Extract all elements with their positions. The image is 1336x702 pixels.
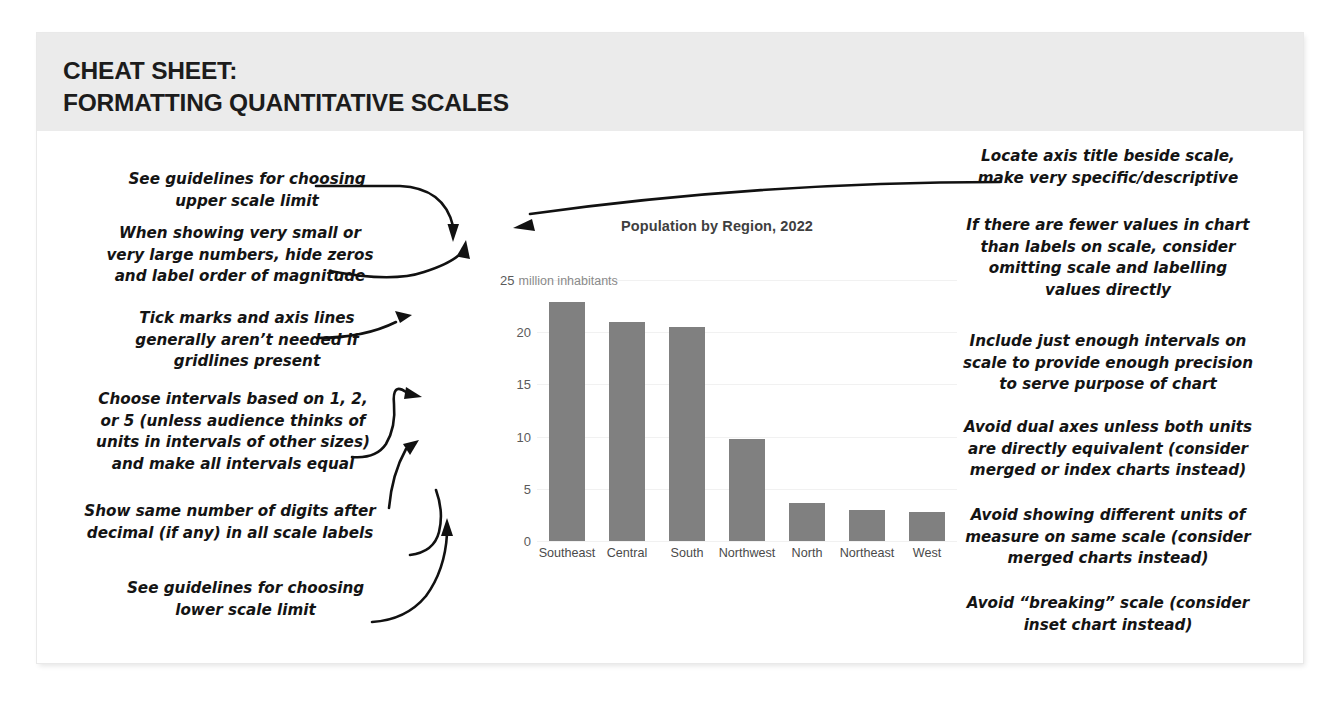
annotation-lower-scale-limit: See guidelines for choosing lower scale … [99,578,392,621]
bar-north [789,503,825,541]
gridline-15 [537,384,957,385]
y-axis-title: million inhabitants [518,274,617,288]
annotation-hide-zeros: When showing very small or very large nu… [85,223,395,288]
annotation-upper-scale-limit: See guidelines for choosing upper scale … [102,169,392,212]
annotation-dual-axes: Avoid dual axes unless both units are di… [935,417,1281,482]
ytick-label-0: 0 [524,534,531,549]
annotation-tick-marks: Tick marks and axis lines generally aren… [102,308,392,373]
bar-central [609,322,645,541]
cheat-sheet-card: CHEAT SHEET: FORMATTING QUANTITATIVE SCA… [37,33,1303,663]
annotation-axis-title: Locate axis title beside scale, make ver… [943,146,1273,189]
cheat-sheet-page: CHEAT SHEET: FORMATTING QUANTITATIVE SCA… [0,0,1336,702]
page-title: CHEAT SHEET: FORMATTING QUANTITATIVE SCA… [63,55,509,120]
annotation-breaking-scale: Avoid “breaking” scale (consider inset c… [935,593,1281,636]
bar-northwest [729,439,765,541]
ytick-label-5: 5 [524,481,531,496]
population-bar-chart: Population by Region, 2022 0 5 10 15 20 … [477,218,957,563]
chart-plot-area: 0 5 10 15 20 25million inhabitants South… [537,280,957,541]
bar-south [669,327,705,541]
page-title-line1: CHEAT SHEET: [63,55,509,87]
ytick-label-25: 25 [500,273,514,288]
xlabel-central: Central [607,546,648,560]
xlabel-northwest: Northwest [719,546,776,560]
ytick-label-10: 10 [517,429,531,444]
xlabel-south: South [671,546,704,560]
annotation-same-digits: Show same number of digits after decimal… [65,501,395,544]
xlabel-southeast: Southeast [539,546,596,560]
annotation-choose-intervals: Choose intervals based on 1, 2, or 5 (un… [71,389,395,475]
xlabel-northeast: Northeast [840,546,895,560]
gridline-0 [537,541,957,542]
chart-title: Population by Region, 2022 [477,218,957,234]
gridline-20 [537,332,957,333]
page-title-line2: FORMATTING QUANTITATIVE SCALES [63,87,509,119]
ytick-label-20: 20 [517,325,531,340]
annotation-enough-intervals: Include just enough intervals on scale t… [935,331,1281,396]
ytick-label-15: 15 [517,377,531,392]
bar-southeast [549,302,585,541]
annotation-fewer-values: If there are fewer values in chart than … [935,215,1281,301]
gridline-10 [537,437,957,438]
bar-northeast [849,510,885,541]
ytick-label-25-with-axis-title: 25million inhabitants [500,273,618,288]
annotation-different-units: Avoid showing different units of measure… [935,505,1281,570]
xlabel-north: North [792,546,823,560]
